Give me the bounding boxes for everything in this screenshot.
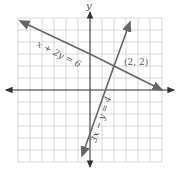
y-axis-label: y [85, 0, 92, 11]
graph: y x + 2y = 6 3x − y = 4 (2, 2) [0, 0, 177, 169]
line-x-plus-2y-eq-6 [20, 21, 162, 90]
axes [6, 12, 174, 167]
intersection-label: (2, 2) [124, 57, 148, 67]
